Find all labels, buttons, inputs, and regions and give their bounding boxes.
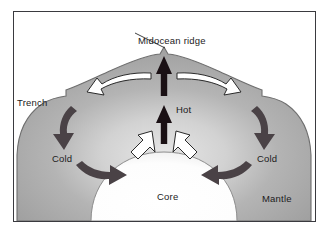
diagram-page: Midocean ridge Trench Hot Cold Cold Core… <box>0 0 328 234</box>
label-trench: Trench <box>17 98 47 108</box>
figure-frame: Midocean ridge Trench Hot Cold Cold Core… <box>13 11 316 222</box>
label-midocean-ridge: Midocean ridge <box>138 36 206 46</box>
label-hot: Hot <box>176 105 191 115</box>
label-cold-right: Cold <box>257 154 277 164</box>
label-cold-left: Cold <box>52 154 72 164</box>
label-core: Core <box>157 192 178 202</box>
label-mantle: Mantle <box>262 194 292 204</box>
